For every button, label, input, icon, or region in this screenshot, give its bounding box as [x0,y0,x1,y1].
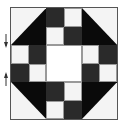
arrow-up-icon [3,72,9,86]
square-dark [11,64,29,83]
square-dark [64,101,82,120]
square-light [46,101,64,120]
arrow-down-icon [3,34,9,48]
square-light [64,8,82,27]
square-dark [64,27,82,46]
square-dark [82,64,100,83]
triangle-icon [82,82,117,119]
corner-bottom-left [11,82,46,119]
square-light [46,27,64,46]
square-dark [29,45,47,64]
square-dark [46,8,64,27]
triangle-icon [11,8,46,45]
arrow-down-marker [3,34,9,52]
corner-top-right [82,8,117,45]
triangle-icon [11,82,46,119]
square-dark [99,45,117,64]
square-light [82,45,100,64]
square-light [99,64,117,83]
square-light [29,64,47,83]
square-light [64,82,82,101]
center-square [46,45,81,82]
arrow-up-marker [3,72,9,90]
square-light [11,45,29,64]
square-dark [46,82,64,101]
corner-top-left [11,8,46,45]
quilt-block [10,7,118,120]
triangle-icon [82,8,117,45]
corner-bottom-right [82,82,117,119]
